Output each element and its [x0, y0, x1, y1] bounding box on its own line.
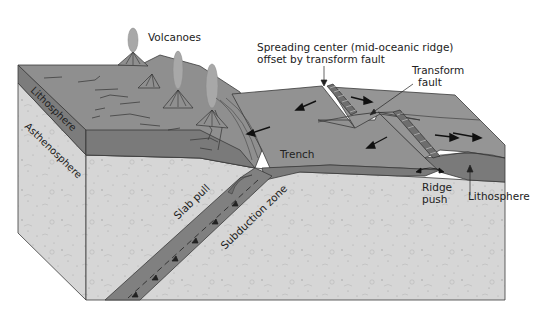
label-lithosphere-right: Lithosphere — [468, 190, 530, 202]
volcano-plume-icon — [128, 28, 138, 52]
volcano-plume-icon — [173, 51, 183, 89]
label-ridge-push-2: push — [422, 193, 447, 205]
plate-tectonics-diagram: Volcanoes Spreading center (mid-oceanic … — [0, 0, 540, 312]
label-spreading-center-2: offset by transform fault — [257, 53, 385, 65]
label-transform-fault-1: Transform — [411, 64, 464, 76]
label-ridge-push-1: Ridge — [422, 181, 452, 193]
volcano-1 — [118, 28, 148, 66]
label-transform-fault-2: fault — [418, 76, 442, 88]
volcano-plume-icon — [206, 64, 218, 108]
label-spreading-center-1: Spreading center (mid-oceanic ridge) — [257, 41, 453, 53]
label-trench: Trench — [279, 148, 315, 160]
label-volcanoes: Volcanoes — [148, 31, 201, 43]
